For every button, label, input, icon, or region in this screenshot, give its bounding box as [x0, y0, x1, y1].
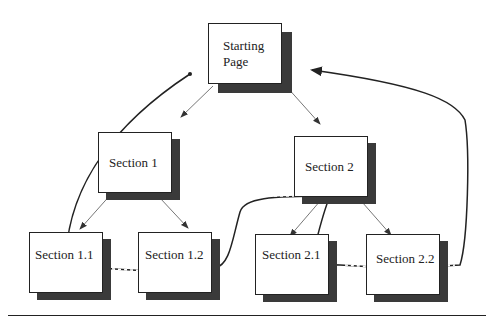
node-label: Section 2	[305, 159, 354, 175]
bottom-rule	[8, 315, 486, 316]
node-label: Page	[223, 54, 248, 70]
node-label: Section 1	[109, 155, 158, 171]
node-label: Section 2.2	[376, 251, 435, 267]
node-label: Section 2.1	[262, 247, 321, 263]
node-label: Section 1.2	[145, 247, 204, 263]
edge-start-to-s1	[181, 86, 213, 117]
node-label: Starting	[223, 38, 264, 54]
node-label: Section 1.1	[35, 247, 94, 263]
